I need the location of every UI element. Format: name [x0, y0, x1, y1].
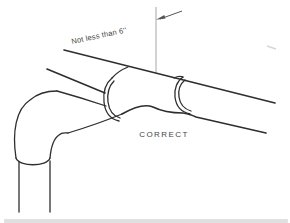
dimension-label: Not less than 6'' — [71, 25, 128, 46]
run-top-line — [64, 50, 275, 103]
branch-pipe-bottom-edge — [68, 114, 122, 133]
dimension-arrow-head-icon — [156, 15, 166, 20]
elbow-bottom-rim — [16, 158, 50, 165]
fitting-left-shoulder — [112, 67, 128, 78]
dimension-group — [156, 7, 276, 73]
page-edge-artifact — [4, 219, 288, 223]
fitting-bottom-and-right-pipe-line — [122, 106, 266, 133]
branch-pipe-top-edge — [57, 91, 106, 106]
conduit-diagram: Not less than 6'' CORRECT — [0, 0, 290, 223]
elbow-inner-edge — [50, 133, 68, 158]
caption-label: CORRECT — [139, 130, 188, 139]
run-bottom-left-line — [47, 69, 105, 93]
right-coupling-inner-arc — [179, 80, 191, 111]
scan-smudge — [267, 46, 276, 49]
left-coupling-inner-arc — [108, 81, 120, 118]
elbow-outer-edge — [15, 91, 57, 158]
figure-canvas: Not less than 6'' CORRECT — [0, 0, 290, 223]
